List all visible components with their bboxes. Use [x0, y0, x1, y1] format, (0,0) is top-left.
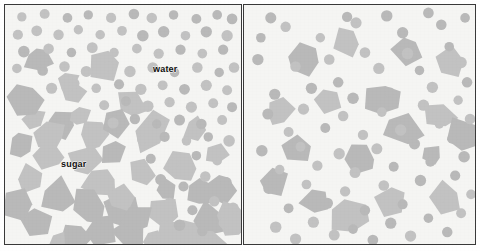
water-molecule [405, 230, 416, 241]
water-molecule [252, 54, 263, 65]
water-molecule [154, 48, 164, 58]
water-molecule [280, 22, 290, 32]
water-molecule [284, 127, 294, 137]
water-molecule [360, 205, 370, 215]
water-molecule [389, 162, 399, 172]
water-molecule [338, 111, 348, 121]
water-molecule [204, 132, 213, 141]
water-molecule [263, 183, 274, 194]
water-molecule [164, 198, 175, 209]
water-molecule [415, 66, 424, 75]
water-molecule [117, 26, 127, 36]
water-molecule [181, 31, 191, 41]
water-molecule [59, 61, 70, 72]
sugar-water-diagram: water sugar [0, 0, 480, 251]
water-molecule [158, 80, 168, 90]
water-molecule [427, 82, 438, 93]
water-molecule [218, 44, 228, 54]
water-molecule [269, 89, 280, 100]
water-molecule [84, 10, 93, 19]
water-molecule [158, 26, 169, 37]
water-molecule [322, 198, 333, 209]
water-molecule [466, 190, 475, 200]
water-molecule [265, 12, 276, 23]
water-molecule [227, 102, 237, 112]
water-molecule [227, 203, 238, 214]
water-molecule [290, 233, 301, 244]
water-molecule [74, 25, 83, 34]
panel-undissolved [4, 4, 242, 245]
label-water: water [153, 64, 178, 74]
water-molecule [147, 13, 158, 24]
water-molecule [191, 14, 201, 24]
water-molecule [196, 119, 207, 130]
water-molecule [160, 132, 170, 142]
water-molecule [358, 130, 368, 140]
sugar-crystal [314, 89, 341, 113]
water-molecule [197, 226, 208, 237]
water-molecule [37, 65, 48, 76]
water-molecule [424, 213, 434, 223]
water-molecule [447, 134, 457, 144]
water-molecule [137, 30, 149, 42]
water-molecule [442, 227, 452, 237]
water-molecule [121, 96, 131, 106]
water-molecule [186, 102, 197, 113]
water-molecule [192, 62, 203, 73]
water-molecule [306, 83, 317, 94]
water-molecule [87, 42, 98, 53]
water-molecule [146, 154, 156, 164]
water-molecule [418, 99, 429, 110]
water-molecule [95, 30, 105, 40]
water-molecule [63, 13, 73, 23]
water-molecule [109, 48, 118, 57]
water-molecule [465, 114, 475, 125]
water-molecule [208, 98, 218, 108]
water-molecule [212, 10, 222, 20]
water-molecule [395, 124, 406, 135]
water-molecule [81, 66, 92, 77]
water-molecule [174, 115, 185, 126]
water-molecule [368, 235, 379, 244]
sugar-crystal [10, 133, 33, 158]
water-molecule [221, 30, 232, 41]
water-molecule [350, 167, 361, 178]
water-molecule [69, 78, 79, 88]
water-molecule [460, 13, 470, 23]
water-molecule [350, 17, 361, 28]
water-molecule [324, 54, 335, 65]
water-molecule [284, 203, 294, 213]
water-molecule [209, 196, 220, 207]
sugar-crystal [102, 141, 126, 163]
water-molecule [217, 115, 227, 125]
panel-dissolved [243, 4, 476, 245]
water-molecule [450, 170, 460, 180]
water-molecule [31, 25, 42, 36]
water-molecule [296, 142, 306, 152]
sugar-crystal [41, 175, 75, 211]
water-molecule [187, 205, 197, 215]
water-molecule [298, 104, 309, 115]
water-molecule [12, 64, 22, 74]
water-molecule [103, 61, 114, 72]
water-molecule [308, 217, 319, 228]
water-molecule [334, 148, 345, 159]
water-molecule [155, 174, 166, 185]
water-molecule [425, 157, 435, 167]
water-molecule [114, 79, 124, 89]
water-molecule [43, 43, 54, 54]
water-molecule [223, 135, 235, 147]
water-molecule [124, 66, 135, 77]
water-molecule [342, 12, 352, 22]
water-molecule [378, 180, 389, 191]
water-molecule [373, 63, 384, 74]
water-molecule [17, 12, 26, 21]
water-molecule [434, 194, 444, 204]
water-molecule [132, 44, 142, 54]
water-molecule [423, 8, 434, 19]
water-molecule [290, 61, 300, 71]
water-molecule [340, 186, 350, 196]
water-molecule [106, 13, 116, 23]
water-molecule [385, 87, 395, 97]
sugar-crystal [333, 28, 358, 58]
